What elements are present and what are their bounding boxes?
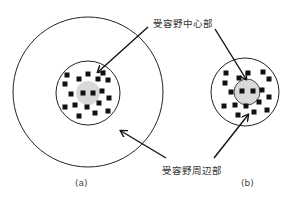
receptor-dot [107, 96, 112, 101]
receptor-dot [86, 72, 91, 77]
receptor-dot [106, 78, 111, 83]
receptor-dot [223, 81, 228, 86]
receptor-dot [81, 91, 86, 96]
receptor-dot [63, 105, 68, 110]
receptor-dot [257, 100, 262, 105]
center-region [234, 79, 260, 105]
receptor-dot [261, 70, 266, 75]
arrows-group [98, 27, 248, 158]
receptor-dot [63, 82, 68, 87]
receptor-dot [244, 104, 249, 109]
panels-group [13, 17, 279, 167]
caption-b: (b) [241, 178, 254, 188]
receptor-dot [77, 114, 82, 119]
center-label: 受容野中心部 [153, 16, 213, 30]
arrow-center-b [215, 29, 246, 79]
center-region [76, 81, 100, 105]
receptor-dot [77, 77, 82, 82]
receptor-dot [73, 103, 78, 108]
receptor-dot [85, 105, 90, 110]
receptor-dot [236, 113, 241, 118]
receptor-dot [233, 103, 238, 108]
receptor-dot [97, 101, 102, 106]
receptor-dot [69, 92, 74, 97]
panel-b [211, 58, 279, 126]
surround-label: 受容野周辺部 [162, 163, 222, 177]
receptor-dot [106, 109, 111, 114]
arrow-surround-a [121, 131, 166, 158]
receptor-dot [260, 88, 265, 93]
panel-a [13, 17, 163, 167]
caption-a: (a) [75, 178, 88, 188]
receptor-dot [65, 73, 70, 78]
receptor-dot [229, 90, 234, 95]
receptor-dot [267, 95, 272, 100]
receptor-dot [240, 89, 245, 94]
receptor-dot [237, 76, 242, 81]
arrow-center-a [98, 27, 148, 72]
receptor-dot [100, 89, 105, 94]
diagram-canvas [0, 0, 288, 199]
receptor-dot [251, 89, 256, 94]
arrow-surround-b [214, 115, 248, 158]
receptive-field-diagram: 受容野中心部 受容野周辺部 (a) (b) [0, 0, 288, 199]
receptor-dot [224, 71, 229, 76]
receptor-dot [246, 71, 251, 76]
receptor-dot [96, 77, 101, 82]
receptor-dot [265, 108, 270, 113]
receptor-dot [101, 71, 106, 76]
receptor-dot [267, 77, 272, 82]
receptor-dot [222, 104, 227, 109]
receptor-dot [252, 110, 257, 115]
receptor-dot [91, 91, 96, 96]
receptor-dot [93, 111, 98, 116]
